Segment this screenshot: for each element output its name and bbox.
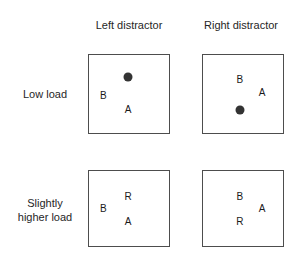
column-header-right-distractor: Right distractor	[198, 19, 284, 32]
distractor-dot	[235, 105, 244, 114]
stimulus-letter-b: B	[236, 75, 243, 85]
attention-load-distractor-diagram: Left distractor Right distractor Low loa…	[0, 0, 296, 259]
stimulus-letter-b: B	[236, 192, 243, 202]
stimulus-letter-a: A	[125, 105, 132, 115]
stimulus-letter-b: B	[100, 204, 107, 214]
display-box-higher-load-right-distractor: BAR	[202, 170, 284, 247]
stimulus-letter-a: A	[259, 88, 266, 98]
distractor-dot	[124, 72, 133, 81]
stimulus-letter-r: R	[236, 217, 243, 227]
stimulus-letter-r: R	[125, 192, 132, 202]
stimulus-letter-a: A	[259, 204, 266, 214]
stimulus-letter-a: A	[125, 217, 132, 227]
display-box-higher-load-left-distractor: RBA	[88, 170, 170, 247]
stimulus-letter-b: B	[100, 91, 107, 101]
display-box-low-load-left-distractor: BA	[88, 54, 170, 134]
row-label-slightly-higher-load: Slightly higher load	[6, 196, 84, 224]
row-label-low-load: Low load	[6, 87, 84, 101]
display-box-low-load-right-distractor: BA	[202, 54, 284, 134]
column-header-left-distractor: Left distractor	[86, 19, 172, 32]
